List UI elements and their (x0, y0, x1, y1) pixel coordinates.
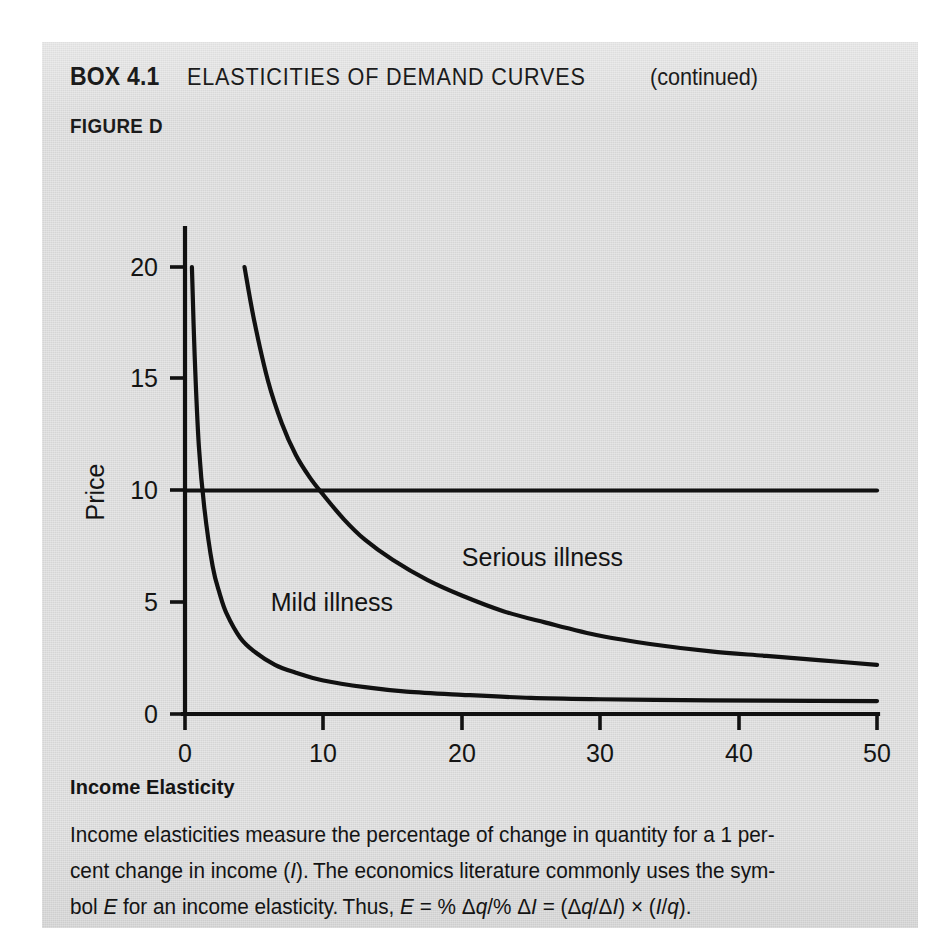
body-line-2: cent change in income (I). The economics… (70, 853, 869, 889)
body-line-1: Income elasticities measure the percenta… (70, 817, 869, 853)
x-tick-label-10: 10 (309, 739, 337, 767)
box-number: BOX 4.1 (70, 62, 159, 91)
annotation-mild-illness: Mild illness (271, 588, 393, 616)
series-mild-illness (192, 267, 877, 701)
section-heading: Income Elasticity (70, 775, 235, 799)
annotation-serious-illness: Serious illness (462, 543, 623, 571)
x-tick-label-30: 30 (586, 739, 614, 767)
y-axis-ticks (170, 267, 185, 714)
chart-series (185, 267, 877, 701)
x-tick-label-0: 0 (178, 739, 192, 767)
figure-d-chart: 20 15 10 5 0 0 10 20 30 40 50 Price Medi… (42, 162, 918, 782)
y-tick-label-5: 5 (144, 588, 158, 616)
feature-box: BOX 4.1ELASTICITIES OF DEMAND CURVES(con… (42, 42, 918, 928)
x-axis-tick-labels: 0 10 20 30 40 50 (178, 739, 891, 767)
figure-label: FIGURE D (70, 115, 163, 138)
y-axis-title: Price (81, 464, 109, 521)
chart-axes (183, 228, 878, 714)
running-head-chapter: CHAPTER 4 THE DEMAND FOR MEDICAL CARE: C… (52, 0, 604, 3)
y-tick-label-20: 20 (130, 253, 158, 281)
box-body-text: Income elasticities measure the percenta… (70, 817, 898, 925)
chart-svg: 20 15 10 5 0 0 10 20 30 40 50 Price Medi… (42, 162, 918, 782)
y-tick-label-15: 15 (130, 364, 158, 392)
box-title-text: ELASTICITIES OF DEMAND CURVES (187, 63, 586, 91)
x-tick-label-40: 40 (725, 739, 753, 767)
y-tick-label-10: 10 (130, 476, 158, 504)
running-head: 112CHAPTER 4 THE DEMAND FOR MEDICAL CARE… (0, 0, 946, 9)
x-axis-ticks (185, 714, 877, 730)
x-tick-label-50: 50 (863, 739, 891, 767)
body-line-3: bol E for an income elasticity. Thus, E … (70, 889, 869, 925)
box-continued-label: (continued) (650, 63, 758, 91)
x-tick-label-20: 20 (448, 739, 476, 767)
y-axis-tick-labels: 20 15 10 5 0 (130, 253, 158, 728)
box-title: BOX 4.1ELASTICITIES OF DEMAND CURVES(con… (70, 62, 770, 91)
y-tick-label-0: 0 (144, 700, 158, 728)
